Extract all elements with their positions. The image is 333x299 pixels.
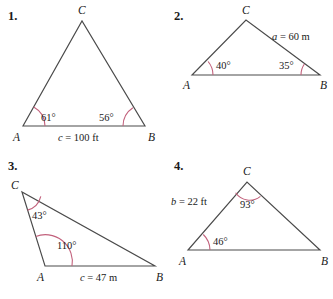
vertex-label-a: A	[12, 131, 21, 143]
angle-label-c: 93°	[240, 199, 255, 210]
angle-label-a: 110°	[57, 240, 77, 251]
side-label-c: c = 47 m	[80, 272, 117, 283]
problem-number: 1.	[8, 9, 17, 23]
vertex-label-a: A	[36, 271, 45, 283]
vertex-label-b: B	[156, 271, 163, 283]
angle-arc-b	[123, 108, 133, 126]
problem-1: 1. A B C 61° 56° c = 100 ft	[0, 0, 166, 150]
triangle-exercise-figure: 1. A B C 61° 56° c = 100 ft 2. A B C	[0, 0, 333, 299]
problem-number: 4.	[174, 159, 183, 173]
problem-number: 2.	[174, 9, 183, 23]
vertex-label-b: B	[320, 79, 327, 91]
vertex-label-c: C	[243, 165, 251, 177]
problem-4: 4. A B C 93° 46° b = 22 ft	[166, 150, 333, 299]
triangle-outline	[23, 21, 145, 126]
angle-arc-a	[203, 235, 210, 251]
side-label-b: b = 22 ft	[171, 196, 207, 207]
vertex-label-a: A	[182, 79, 191, 91]
problem-2: 2. A B C 40° 35° a = 60 m	[166, 0, 333, 150]
vertex-label-c: C	[11, 179, 19, 191]
vertex-label-a: A	[178, 255, 187, 267]
angle-label-a: 46°	[213, 236, 228, 247]
triangle-outline	[22, 192, 155, 266]
vertex-label-b: B	[148, 131, 155, 143]
angle-label-a: 40°	[216, 60, 231, 71]
angle-label-b: 56°	[99, 112, 114, 123]
vertex-label-c: C	[78, 4, 86, 16]
problem-3: 3. C A B 43° 110° c = 47 m	[0, 150, 166, 299]
side-label-a: a = 60 m	[272, 31, 310, 42]
angle-arc-b	[301, 64, 304, 75]
side-label-c: c = 100 ft	[58, 132, 99, 143]
problem-number: 3.	[8, 159, 17, 173]
angle-label-a: 61°	[41, 112, 56, 123]
angle-label-b: 35°	[279, 60, 294, 71]
vertex-label-c: C	[242, 4, 250, 16]
angle-arc-a	[208, 62, 213, 76]
vertex-label-b: B	[321, 255, 328, 267]
angle-label-c: 43°	[32, 210, 47, 221]
